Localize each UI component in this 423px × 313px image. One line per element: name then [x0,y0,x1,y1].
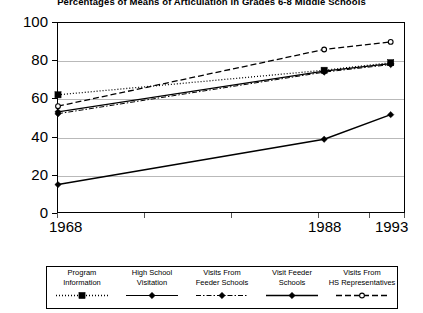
series-line [58,63,391,95]
chart-root: Percentages of Means of Articulation in … [0,0,423,313]
legend: ProgramInformationHigh SchoolVisitationV… [46,266,398,309]
y-tick-label: 60 [31,90,48,105]
series-3 [55,111,394,187]
legend-label: Visits From [203,268,240,278]
series-line [58,115,391,185]
filled-diamond-marker [289,292,295,298]
plot-area [57,22,405,213]
legend-label: Program [68,268,97,278]
data-point-marker [322,47,327,52]
filled-diamond-marker [219,292,225,298]
series-4 [56,40,393,109]
legend-label: Visit Feeder [272,268,312,278]
series-line [58,65,391,114]
y-axis: 020406080100 [0,22,57,213]
series-layer [58,23,404,212]
legend-item[interactable]: Visits FromHS Representatives [327,267,397,301]
legend-label: Information [63,278,101,288]
legend-item[interactable]: Visits FromFeeder Schools [187,267,257,301]
legend-label: Feeder Schools [196,278,249,288]
series-line [58,42,391,106]
filled-square-marker [79,292,85,298]
y-tick-label: 80 [31,52,48,67]
legend-label: HS Representatives [329,278,396,288]
data-point-marker [56,104,61,109]
x-tick-mark [231,213,232,218]
filled-diamond-marker [260,290,324,301]
legend-label: Visitation [137,278,167,288]
hollow-circle-marker [360,293,365,298]
filled-diamond-marker [149,292,155,298]
data-point-marker [321,136,327,142]
x-tick-label: 1993 [375,218,408,235]
filled-diamond-marker [190,290,254,301]
series-0 [55,60,394,98]
legend-label: Schools [279,278,306,288]
y-tick-label: 40 [31,129,48,144]
legend-item[interactable]: High SchoolVisitation [117,267,187,301]
data-point-marker [55,92,61,98]
hollow-circle-marker [330,290,394,301]
data-point-marker [388,111,394,117]
legend-item[interactable]: Visit FeederSchools [257,267,327,301]
x-tick-mark [369,213,370,218]
chart-title: Percentages of Means of Articulation in … [0,0,423,8]
y-tick-label: 100 [23,14,48,29]
legend-item[interactable]: ProgramInformation [47,267,117,301]
series-2 [55,61,394,116]
legend-label: Visits From [343,268,380,278]
x-tick-label: 1968 [49,218,82,235]
filled-diamond-marker [120,290,184,301]
x-axis: 196819881993 [57,213,405,243]
x-tick-mark [144,213,145,218]
x-tick-label: 1988 [308,218,341,235]
y-tick-label: 0 [40,205,48,220]
legend-label: High School [132,268,172,278]
data-point-marker [388,40,393,45]
filled-square-marker [50,290,114,301]
y-tick-label: 20 [31,167,48,182]
